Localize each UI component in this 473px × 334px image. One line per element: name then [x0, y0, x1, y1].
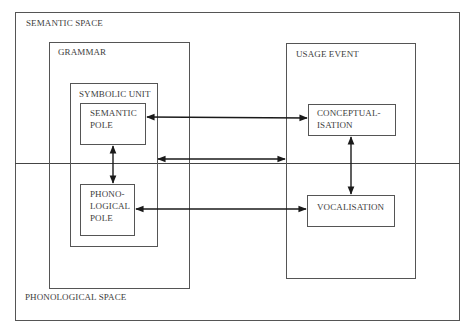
connection-arrows: [0, 0, 473, 334]
semantic-to-conceptualisation-arrow: [147, 117, 307, 118]
